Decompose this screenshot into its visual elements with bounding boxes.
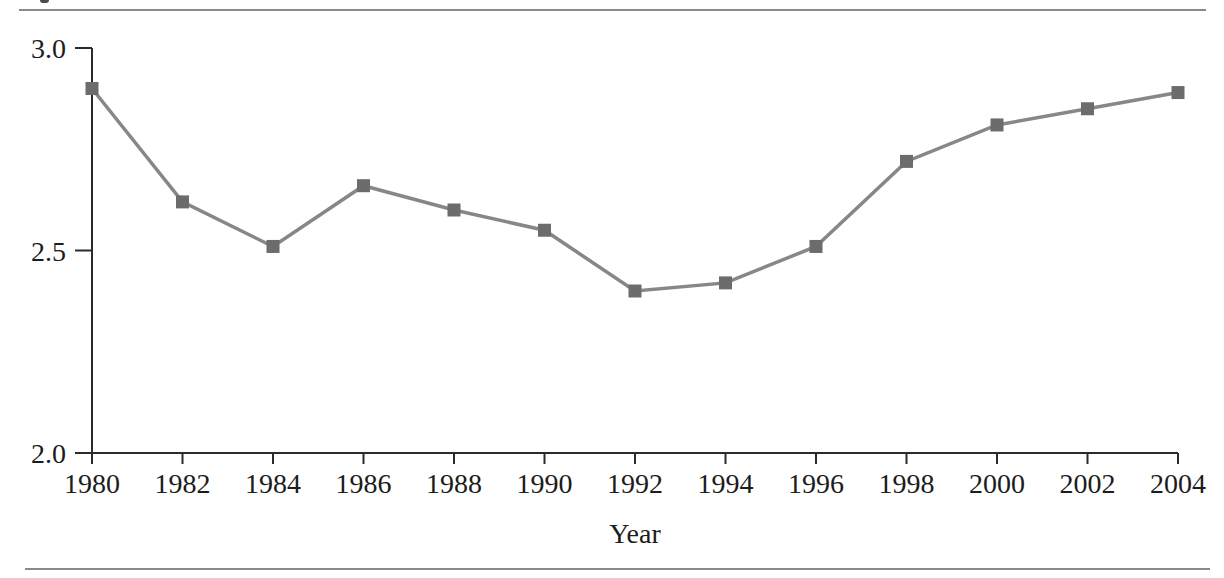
- x-tick-label: 1986: [336, 468, 392, 499]
- x-axis-label: Year: [609, 518, 661, 549]
- data-point-marker: [176, 195, 189, 208]
- data-point-marker: [267, 240, 280, 253]
- x-tick-label: 1990: [517, 468, 573, 499]
- x-tick-label: 1998: [879, 468, 935, 499]
- x-tick-label: 1982: [155, 468, 211, 499]
- data-point-marker: [357, 179, 370, 192]
- data-point-marker: [86, 82, 99, 95]
- y-tick-label: 3.0: [31, 33, 66, 64]
- data-point-marker: [629, 285, 642, 298]
- x-tick-label: 1980: [64, 468, 120, 499]
- y-tick-label: 2.0: [31, 438, 66, 469]
- data-point-marker: [1081, 102, 1094, 115]
- x-tick-label: 1994: [698, 468, 754, 499]
- x-tick-label: 2002: [1060, 468, 1116, 499]
- data-point-marker: [538, 224, 551, 237]
- x-tick-label: 2000: [969, 468, 1025, 499]
- x-tick-label: 1996: [788, 468, 844, 499]
- data-point-marker: [1172, 86, 1185, 99]
- chart-svg: Year 3.02.52.019801982198419861988199019…: [0, 0, 1224, 578]
- data-point-marker: [448, 204, 461, 217]
- figure: Year 3.02.52.019801982198419861988199019…: [0, 0, 1224, 578]
- x-tick-label: 2004: [1150, 468, 1206, 499]
- x-tick-label: 1988: [426, 468, 482, 499]
- data-point-marker: [810, 240, 823, 253]
- x-tick-label: 1984: [245, 468, 301, 499]
- data-point-marker: [991, 118, 1004, 131]
- data-line: [92, 89, 1178, 292]
- y-tick-label: 2.5: [31, 236, 66, 267]
- data-point-marker: [900, 155, 913, 168]
- x-tick-label: 1992: [607, 468, 663, 499]
- bottom-rule: [25, 568, 1210, 570]
- data-point-marker: [719, 276, 732, 289]
